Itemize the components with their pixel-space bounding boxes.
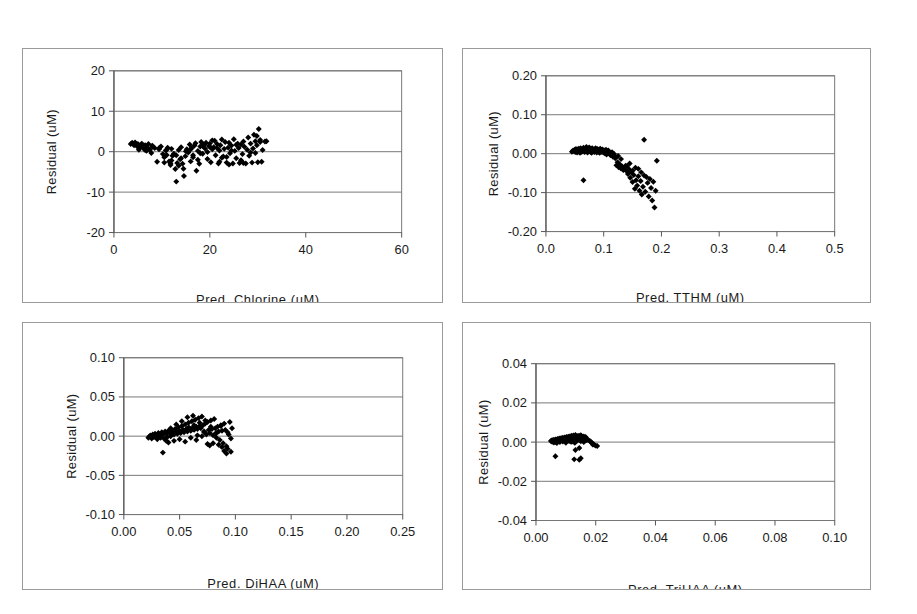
x-tick-label: 0.00 xyxy=(111,524,136,539)
y-tick-label: 0.00 xyxy=(502,435,527,450)
y-tick-label: 0.00 xyxy=(90,429,115,444)
y-tick-label: 0.04 xyxy=(502,356,527,371)
y-axis-label: Residual (uM) xyxy=(64,393,79,478)
y-tick-label: -0.10 xyxy=(508,185,537,200)
panel-chlorine-svg: -20-10010200204060Pred. Chlorine (uM)Res… xyxy=(23,49,442,302)
x-axis-label: Pred. Chlorine (uM) xyxy=(196,292,320,302)
y-tick-label: 10 xyxy=(91,104,105,119)
y-tick-label: 0.02 xyxy=(502,395,527,410)
x-tick-label: 0.00 xyxy=(523,530,548,545)
y-tick-label: -20 xyxy=(86,225,105,240)
y-tick-label: -0.02 xyxy=(498,474,527,489)
panel-trihaa-svg: -0.04-0.020.000.020.040.000.020.040.060.… xyxy=(463,323,870,589)
scatter-points xyxy=(548,432,600,463)
y-tick-label: 0.00 xyxy=(512,146,537,161)
x-axis-label: Pred. TTHM (uM) xyxy=(636,290,745,302)
panel-dihaa: -0.10-0.050.000.050.100.000.050.100.150.… xyxy=(22,322,443,590)
plot-area-trihaa: -0.04-0.020.000.020.040.000.020.040.060.… xyxy=(476,356,847,589)
x-tick-label: 0.1 xyxy=(595,241,613,256)
y-axis-label: Residual (uM) xyxy=(476,399,491,484)
x-tick-label: 0.2 xyxy=(652,241,670,256)
x-tick-label: 0.0 xyxy=(537,241,555,256)
plot-area-tthm: -0.20-0.100.000.100.200.00.10.20.30.40.5… xyxy=(486,68,843,302)
y-axis-label: Residual (uM) xyxy=(44,109,59,194)
panel-chlorine: -20-10010200204060Pred. Chlorine (uM)Res… xyxy=(22,48,443,303)
x-tick-label: 60 xyxy=(394,242,408,257)
plot-area-chlorine: -20-10010200204060Pred. Chlorine (uM)Res… xyxy=(44,63,408,302)
x-tick-label: 20 xyxy=(203,242,217,257)
y-tick-label: -10 xyxy=(86,185,105,200)
y-tick-label: 0.20 xyxy=(512,68,537,83)
y-axis-label: Residual (uM) xyxy=(486,111,501,196)
y-tick-label: 0.10 xyxy=(90,350,115,365)
x-tick-label: 0.25 xyxy=(390,524,415,539)
y-tick-label: 20 xyxy=(91,63,105,78)
x-tick-label: 0.05 xyxy=(167,524,192,539)
x-tick-label: 0.08 xyxy=(762,530,787,545)
y-tick-label: -0.10 xyxy=(85,507,114,522)
x-axis-label: Pred. DiHAA (uM) xyxy=(207,576,319,589)
x-tick-label: 0.02 xyxy=(583,530,608,545)
plot-area-dihaa: -0.10-0.050.000.050.100.000.050.100.150.… xyxy=(64,350,415,589)
panel-dihaa-svg: -0.10-0.050.000.050.100.000.050.100.150.… xyxy=(23,323,442,589)
y-tick-label: 0.10 xyxy=(512,107,537,122)
x-tick-label: 0.10 xyxy=(223,524,248,539)
panel-tthm-svg: -0.20-0.100.000.100.200.00.10.20.30.40.5… xyxy=(463,49,870,302)
x-tick-label: 0 xyxy=(110,242,117,257)
scatter-points xyxy=(569,137,660,211)
x-tick-label: 0.3 xyxy=(710,241,728,256)
x-tick-label: 0.10 xyxy=(822,530,847,545)
x-axis-label: Pred. TriHAA (uM) xyxy=(628,582,743,589)
panel-trihaa: -0.04-0.020.000.020.040.000.020.040.060.… xyxy=(462,322,871,590)
panel-tthm: -0.20-0.100.000.100.200.00.10.20.30.40.5… xyxy=(462,48,871,303)
x-tick-label: 0.15 xyxy=(279,524,304,539)
x-tick-label: 0.06 xyxy=(703,530,728,545)
scatter-points xyxy=(128,126,270,185)
y-tick-label: 0.05 xyxy=(90,389,115,404)
y-tick-label: -0.05 xyxy=(85,468,114,483)
x-tick-label: 0.4 xyxy=(768,241,786,256)
x-tick-label: 0.5 xyxy=(826,241,844,256)
x-tick-label: 40 xyxy=(299,242,313,257)
figure-root: -20-10010200204060Pred. Chlorine (uM)Res… xyxy=(0,0,917,614)
scatter-points xyxy=(145,413,235,457)
x-tick-label: 0.20 xyxy=(334,524,359,539)
y-tick-label: -0.20 xyxy=(508,224,537,239)
y-tick-label: 0 xyxy=(98,144,105,159)
x-tick-label: 0.04 xyxy=(643,530,668,545)
y-tick-label: -0.04 xyxy=(498,513,527,528)
